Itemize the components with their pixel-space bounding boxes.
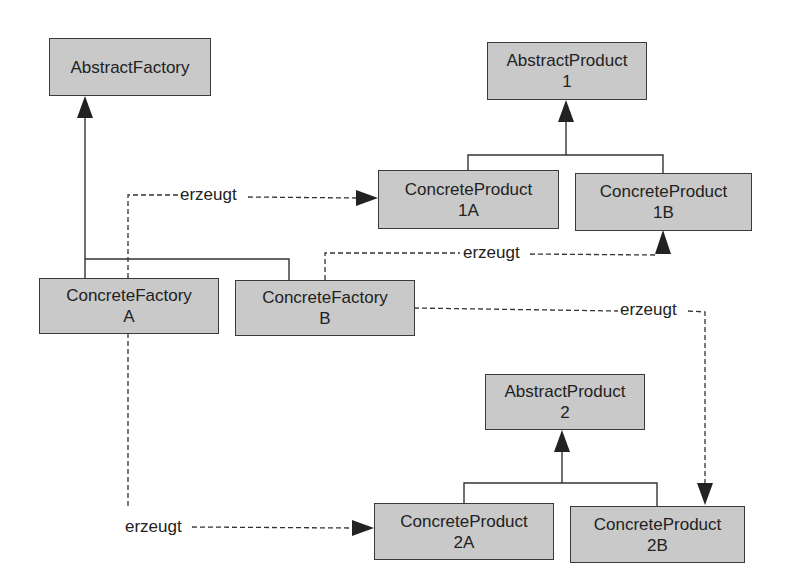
box-title: ConcreteProduct	[400, 511, 528, 532]
dependency-arrow-icon	[697, 483, 713, 505]
dependency-arrow-icon	[356, 190, 378, 206]
concrete-factory-b-box: ConcreteFactory B	[235, 280, 415, 336]
inheritance-arrow-icon	[558, 100, 574, 122]
concrete-factory-a-box: ConcreteFactory A	[39, 278, 219, 334]
concrete-product-1a-box: ConcreteProduct 1A	[378, 170, 559, 229]
box-title: ConcreteProduct	[594, 514, 722, 535]
concrete-product-2b-box: ConcreteProduct 2B	[570, 506, 745, 563]
box-subtitle: A	[123, 306, 134, 327]
concrete-product-2a-box: ConcreteProduct 2A	[374, 503, 554, 560]
abstract-factory-diagram: AbstractFactory AbstractProduct 1 Concre…	[0, 0, 789, 586]
box-subtitle: B	[319, 308, 330, 329]
box-subtitle: 2	[560, 402, 569, 423]
box-title: AbstractProduct	[505, 381, 626, 402]
box-title: AbstractFactory	[70, 57, 189, 78]
box-title: ConcreteProduct	[600, 181, 728, 202]
box-title: ConcreteProduct	[405, 179, 533, 200]
inheritance-arrow-icon	[554, 430, 570, 452]
dependency-arrow-icon	[352, 520, 374, 536]
box-subtitle: 2B	[647, 535, 668, 556]
box-title: AbstractProduct	[507, 50, 628, 71]
edge-label-b-to-1b: erzeugt	[461, 243, 522, 263]
abstract-product-2-box: AbstractProduct 2	[485, 374, 645, 430]
concrete-product-1b-box: ConcreteProduct 1B	[575, 173, 752, 231]
inheritance-arrow-icon	[77, 96, 93, 118]
box-subtitle: 1	[562, 71, 571, 92]
edge-label-a-to-2a: erzeugt	[123, 517, 184, 537]
box-subtitle: 2A	[454, 532, 475, 553]
box-subtitle: 1A	[458, 200, 479, 221]
abstract-factory-box: AbstractFactory	[49, 38, 211, 96]
edge-label-a-to-1a: erzeugt	[178, 185, 239, 205]
dependency-arrow-icon	[655, 230, 671, 254]
box-title: ConcreteFactory	[262, 287, 388, 308]
edge-label-b-to-2b: erzeugt	[618, 300, 679, 320]
box-subtitle: 1B	[653, 202, 674, 223]
abstract-product-1-box: AbstractProduct 1	[487, 42, 647, 100]
box-title: ConcreteFactory	[66, 285, 192, 306]
